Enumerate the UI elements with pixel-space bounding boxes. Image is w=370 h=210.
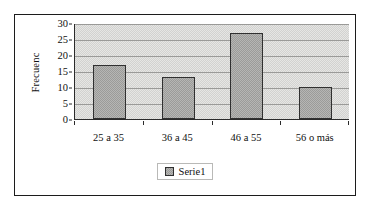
x-axis-tick-mark [348,121,349,125]
y-axis-tick-mark [69,24,72,25]
legend-swatch-serie1 [165,167,174,176]
x-axis-tick-mark [143,121,144,125]
y-axis-tick-mark [69,56,72,57]
y-axis-tick-label: 10 [58,83,69,94]
x-axis-tick-mark [74,121,75,125]
y-axis-tick-mark [69,88,72,89]
legend-label-serie1: Serie1 [179,166,206,177]
gridline [75,40,349,41]
x-axis-category-label: 25 a 35 [74,132,143,143]
y-axis-tick-label: 20 [58,51,69,62]
y-axis-tick-label: 15 [58,67,69,78]
chart-frame: Frecuenc 051015202530 25 a 3536 a 4546 a… [14,14,356,196]
x-axis: 25 a 3536 a 4546 a 5556 o más [74,121,349,147]
y-axis-tick-label: 25 [58,35,69,46]
plot-area [74,24,349,120]
y-axis-tick-mark [69,72,72,73]
y-axis-tick-mark [69,104,72,105]
x-axis-tick-mark [212,121,213,125]
x-axis-tick-mark [280,121,281,125]
y-axis-tick-label: 0 [63,115,68,126]
x-axis-category-label: 56 o más [280,132,349,143]
x-axis-category-label: 46 a 55 [212,132,281,143]
y-axis-tick-label: 5 [63,99,68,110]
y-axis-tick-label: 30 [58,19,69,30]
gridline [75,24,349,25]
legend-box: Serie1 [157,163,214,180]
y-axis-tick-mark [69,120,72,121]
x-axis-category-label: 36 a 45 [143,132,212,143]
bar-2 [162,77,195,119]
gridline [75,56,349,57]
bar-1 [93,65,126,119]
chart-legend: Serie1 [15,163,355,180]
bar-4 [299,87,332,119]
bar-3 [230,33,263,119]
y-axis: 051015202530 [15,24,72,120]
y-axis-tick-mark [69,40,72,41]
